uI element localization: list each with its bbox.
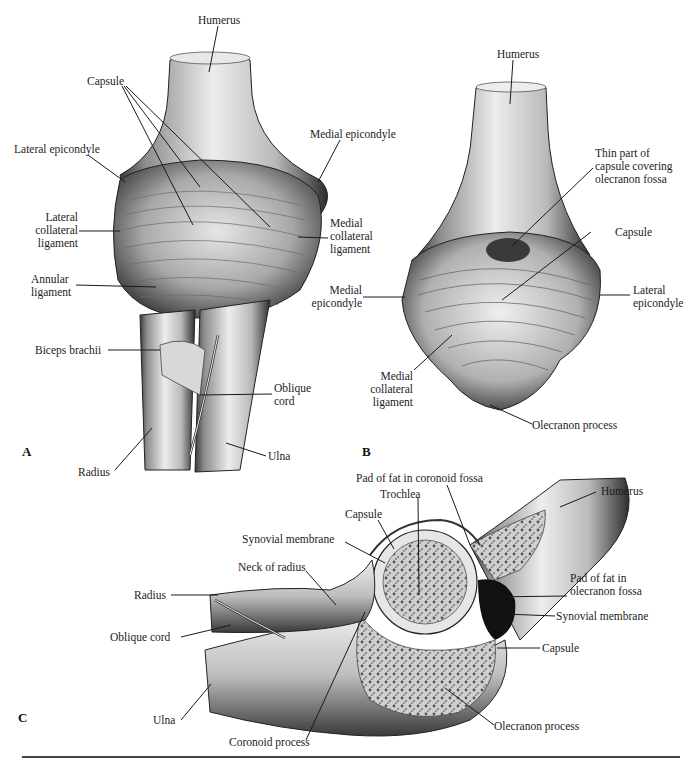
label-a-capsule: Capsule xyxy=(87,75,124,88)
panel-letter-a: A xyxy=(22,444,31,460)
label-b-medial-epicondyle: Medial epicondyle xyxy=(300,284,362,310)
label-a-lateral-collateral-ligament: Lateral collateral ligament xyxy=(28,211,78,250)
label-c-pad-fat-olecranon: Pad of fat in olecranon fossa xyxy=(570,572,642,598)
illustration-artwork xyxy=(0,0,699,763)
panel-letter-c: C xyxy=(18,710,27,726)
panel-letter-b: B xyxy=(362,444,371,460)
label-c-ulna: Ulna xyxy=(153,714,175,727)
label-line: epicondyle xyxy=(300,297,362,310)
label-line: ligament xyxy=(355,396,413,409)
label-a-ulna: Ulna xyxy=(268,450,290,463)
label-line: Lateral xyxy=(28,211,78,224)
label-c-oblique-cord: Oblique cord xyxy=(110,631,170,644)
label-c-radius: Radius xyxy=(134,589,166,602)
label-a-biceps-brachii: Biceps brachii xyxy=(35,344,101,357)
bottom-divider xyxy=(22,756,680,758)
label-b-humerus: Humerus xyxy=(497,48,539,61)
label-a-medial-epicondyle: Medial epicondyle xyxy=(310,128,396,141)
label-line: cord xyxy=(274,395,311,408)
label-line: ligament xyxy=(28,237,78,250)
label-line: Lateral xyxy=(633,284,683,297)
label-line: collateral xyxy=(330,230,373,243)
label-line: Pad of fat in xyxy=(570,572,642,585)
label-c-neck-of-radius: Neck of radius xyxy=(238,561,306,574)
label-a-oblique-cord: Oblique cord xyxy=(274,382,311,408)
label-b-thin-capsule: Thin part of capsule covering olecranon … xyxy=(595,147,673,186)
label-line: ligament xyxy=(330,243,373,256)
label-c-pad-fat-coronoid: Pad of fat in coronoid fossa xyxy=(356,472,483,485)
label-line: Thin part of xyxy=(595,147,673,160)
label-a-annular-ligament: Annular ligament xyxy=(31,273,71,299)
label-line: olecranon fossa xyxy=(570,585,642,598)
label-line: Medial xyxy=(330,217,373,230)
elbow-joint-figure: Humerus Capsule Lateral epicondyle Media… xyxy=(0,0,699,763)
label-c-synovial-membrane-right: Synovial membrane xyxy=(556,610,648,623)
label-b-olecranon-process: Olecranon process xyxy=(532,419,617,432)
label-line: olecranon fossa xyxy=(595,173,673,186)
label-line: Medial xyxy=(355,370,413,383)
label-line: epicondyle xyxy=(633,297,683,310)
label-line: collateral xyxy=(355,383,413,396)
label-b-capsule: Capsule xyxy=(615,226,652,239)
panel-b-artwork xyxy=(402,82,601,410)
label-line: Oblique xyxy=(274,382,311,395)
panel-c-artwork xyxy=(205,478,629,736)
label-a-humerus: Humerus xyxy=(198,14,240,27)
label-line: ligament xyxy=(31,286,71,299)
label-line: collateral xyxy=(28,224,78,237)
label-a-radius: Radius xyxy=(78,466,110,479)
label-c-coronoid-process: Coronoid process xyxy=(229,736,310,749)
label-c-olecranon-process: Olecranon process xyxy=(494,720,579,733)
label-c-humerus: Humerus xyxy=(601,485,643,498)
label-line: capsule covering xyxy=(595,160,673,173)
label-a-lateral-epicondyle: Lateral epicondyle xyxy=(14,143,100,156)
label-c-synovial-membrane-top: Synovial membrane xyxy=(242,533,334,546)
label-line: Medial xyxy=(300,284,362,297)
label-b-lateral-epicondyle: Lateral epicondyle xyxy=(633,284,683,310)
label-c-capsule-right: Capsule xyxy=(542,642,579,655)
label-c-capsule-top: Capsule xyxy=(345,508,382,521)
label-line: Annular xyxy=(31,273,71,286)
label-b-medial-collateral-ligament: Medial collateral ligament xyxy=(355,370,413,409)
label-a-medial-collateral-ligament: Medial collateral ligament xyxy=(330,217,373,256)
label-c-trochlea: Trochlea xyxy=(380,488,420,501)
